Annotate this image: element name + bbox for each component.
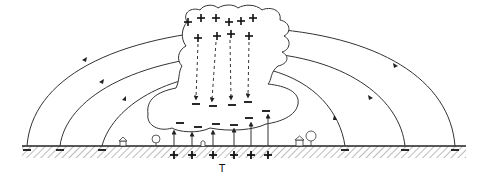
ground	[22, 146, 466, 158]
tree-right-icon	[306, 131, 316, 146]
small-arch-icon	[201, 141, 205, 147]
small-house-left-icon	[119, 137, 127, 146]
ground-label: T	[219, 163, 225, 174]
house-right-icon	[295, 136, 304, 146]
tree-left-icon	[152, 135, 160, 146]
cloud	[148, 5, 298, 132]
thundercloud-field-diagram	[0, 0, 486, 179]
ground-objects	[119, 131, 316, 146]
